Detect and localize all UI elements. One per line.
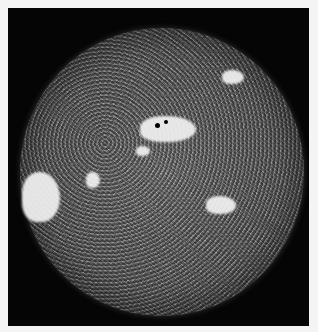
plage-lower-right	[206, 196, 236, 214]
plage-upper-right	[222, 70, 244, 84]
plage-center	[140, 116, 196, 142]
plage-left-mid	[86, 172, 100, 188]
plage-center-lower	[136, 146, 150, 156]
solar-disk	[20, 28, 304, 316]
image-frame	[8, 8, 309, 326]
plage-left	[22, 172, 60, 222]
limb-darkening	[20, 28, 304, 316]
sunspot-center	[155, 123, 160, 128]
sunspot-center-2	[164, 120, 168, 124]
